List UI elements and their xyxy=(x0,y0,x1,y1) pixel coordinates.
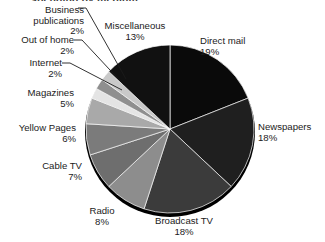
label-cable-tv-pct: 7% xyxy=(4,172,82,183)
label-miscellaneous-text: Miscellaneous xyxy=(105,20,166,31)
label-newspapers-text: Newspapers xyxy=(258,121,311,132)
label-internet-text: Internet xyxy=(29,57,62,68)
pie-chart-figure: ...spending by medium. Business publicat… xyxy=(0,0,325,242)
label-internet: Internet 2% xyxy=(0,58,62,79)
label-out-of-home: Out of home 2% xyxy=(0,35,74,56)
label-yellow-pages-pct: 6% xyxy=(0,134,76,145)
label-broadcast-tv-pct: 18% xyxy=(142,227,226,238)
label-newspapers-pct: 18% xyxy=(258,133,325,144)
label-out-of-home-pct: 2% xyxy=(0,46,74,57)
pie-slices xyxy=(86,45,254,213)
label-internet-pct: 2% xyxy=(0,69,62,80)
label-business-publications-line2: publications xyxy=(33,15,84,26)
label-broadcast-tv-text: Broadcast TV xyxy=(155,215,213,226)
label-radio-pct: 8% xyxy=(80,217,124,228)
label-business-publications: Business publications 2% xyxy=(0,5,84,37)
label-radio-text: Radio xyxy=(89,205,114,216)
label-direct-mail-pct: 19% xyxy=(200,47,276,58)
label-business-publications-line1: Business xyxy=(45,4,84,15)
label-miscellaneous: Miscellaneous 13% xyxy=(92,21,178,42)
label-direct-mail: Direct mail 19% xyxy=(200,36,276,57)
label-newspapers: Newspapers 18% xyxy=(258,122,325,143)
pie-svg xyxy=(82,40,258,220)
pie-chart-graphic xyxy=(82,40,258,220)
label-radio: Radio 8% xyxy=(80,206,124,227)
label-yellow-pages-text: Yellow Pages xyxy=(19,122,76,133)
label-magazines-text: Magazines xyxy=(28,87,74,98)
label-magazines-pct: 5% xyxy=(0,99,74,110)
label-cable-tv-text: Cable TV xyxy=(42,160,82,171)
label-magazines: Magazines 5% xyxy=(0,88,74,109)
label-yellow-pages: Yellow Pages 6% xyxy=(0,123,76,144)
label-broadcast-tv: Broadcast TV 18% xyxy=(142,216,226,237)
label-out-of-home-text: Out of home xyxy=(21,34,74,45)
label-miscellaneous-pct: 13% xyxy=(92,32,178,43)
label-direct-mail-text: Direct mail xyxy=(200,35,245,46)
label-cable-tv: Cable TV 7% xyxy=(4,161,82,182)
chart-title: ...spending by medium. xyxy=(22,0,212,1)
